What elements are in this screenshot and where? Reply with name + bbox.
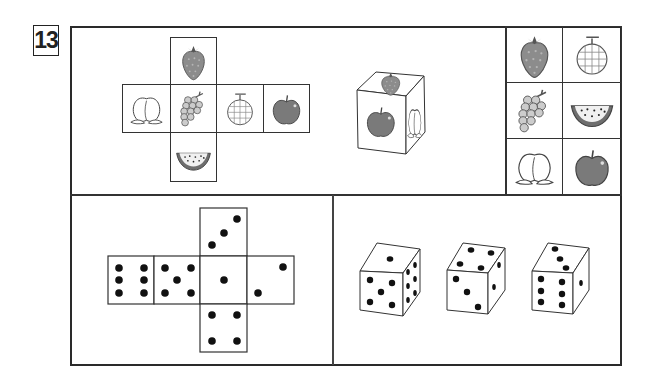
dice-views — [0, 0, 652, 380]
